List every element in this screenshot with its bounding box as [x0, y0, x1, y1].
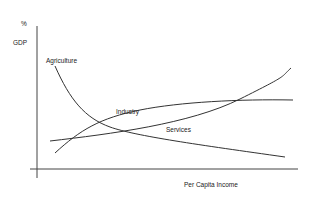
agriculture-curve	[55, 66, 285, 157]
x-axis-label: Per Capita Income	[184, 182, 238, 189]
sector-share-diagram	[0, 0, 313, 197]
industry-label: Industry	[116, 109, 139, 116]
agriculture-label: Agriculture	[46, 58, 77, 65]
y-axis-percent-label: %	[21, 21, 27, 28]
y-axis-gdp-label: GDP	[13, 40, 27, 47]
services-label: Services	[166, 127, 191, 134]
